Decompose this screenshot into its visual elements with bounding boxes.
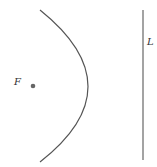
parabola-diagram: F L bbox=[0, 0, 157, 167]
parabola-curve bbox=[40, 10, 88, 162]
focus-label: F bbox=[13, 76, 22, 87]
directrix-label: L bbox=[146, 36, 154, 47]
focus-point bbox=[31, 84, 36, 89]
